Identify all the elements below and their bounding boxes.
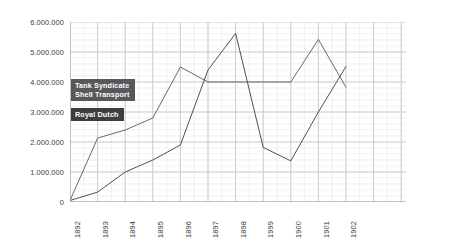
y-axis-tick-label: 0 <box>6 198 64 207</box>
y-axis-tick-label: 3.000.000 <box>6 108 64 117</box>
x-axis-tick-label: 1896 <box>184 221 193 238</box>
y-axis-tick-label: 5.000.000 <box>6 48 64 57</box>
x-axis-tick-label: 1895 <box>156 221 165 238</box>
legend-item-royal-dutch[interactable]: Royal Dutch <box>71 108 124 121</box>
legend-label-line-1: Tank Syndicate <box>75 81 130 90</box>
x-axis-tick-label: 1897 <box>211 221 220 238</box>
chart-container: 6.000.000 5.000.000 4.000.000 3.000.000 … <box>0 0 465 250</box>
x-axis-tick-label: 1900 <box>294 221 303 238</box>
y-axis-tick-label: 2.000.000 <box>6 138 64 147</box>
x-axis-tick-label: 1999 <box>266 221 275 238</box>
x-axis-tick-label: 1894 <box>128 221 137 238</box>
x-axis-tick-label: 1901 <box>322 221 331 238</box>
legend-item-tank-syndicate-shell-transport[interactable]: Tank Syndicate Shell Transport <box>71 79 135 101</box>
y-axis-tick-label: 6.000.000 <box>6 18 64 27</box>
legend-label-line-1: Royal Dutch <box>75 110 119 119</box>
x-axis-tick-label: 1893 <box>101 221 110 238</box>
y-axis-tick-label: 4.000.000 <box>6 78 64 87</box>
x-axis-tick-label: 1898 <box>239 221 248 238</box>
x-axis-tick-label: 1902 <box>349 221 358 238</box>
x-axis-tick-label: 1892 <box>73 221 82 238</box>
y-axis-tick-label: 1.000.000 <box>6 168 64 177</box>
legend-label-line-2: Shell Transport <box>75 90 130 99</box>
